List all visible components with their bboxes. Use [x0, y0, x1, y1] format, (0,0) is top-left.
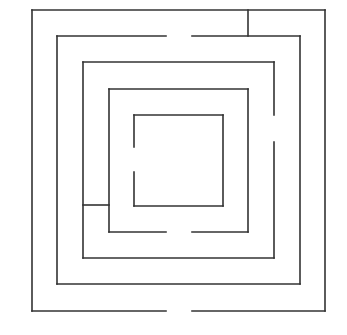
maze-diagram [0, 0, 347, 335]
maze-walls [32, 10, 325, 311]
